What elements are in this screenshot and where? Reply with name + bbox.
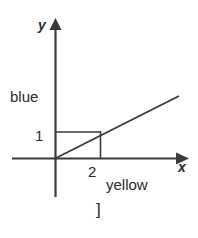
arrow-up-icon [50,18,62,30]
stray-bracket-text: ] [96,201,101,218]
y-tick-label-1: 1 [35,128,43,143]
plotted-line [55,96,179,159]
y-axis-label: y [38,18,46,32]
x-tick-label-2: 2 [88,164,96,179]
rise-label-blue: blue [10,89,38,104]
slope-triangle-figure: blue yellow 1 2 x y ] [0,0,198,238]
run-label-yellow: yellow [106,177,148,192]
x-axis-label: x [178,160,186,174]
